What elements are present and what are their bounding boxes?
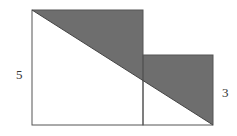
- shaded-region-small-square: [143, 55, 213, 125]
- small-square-side-label: 3: [222, 85, 229, 100]
- geometry-diagram: 5 3: [0, 0, 237, 136]
- large-square-side-label: 5: [16, 67, 23, 82]
